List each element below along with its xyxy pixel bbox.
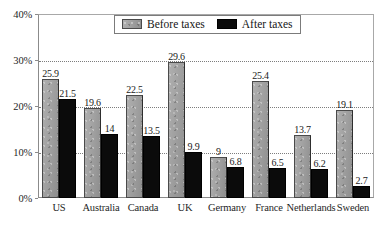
x-axis: USAustraliaCanadaUKGermanyFranceNetherla… (38, 201, 374, 225)
y-axis-tick-label: 40% (13, 9, 32, 20)
bar-value-label: 2.7 (356, 175, 368, 186)
x-axis-category-label: France (255, 201, 283, 215)
bar-group: 22.513.5 (122, 14, 164, 198)
bar-before-taxes: 19.1 (336, 110, 353, 198)
bar-group: 96.8 (206, 14, 248, 198)
x-axis-category-label: Australia (82, 201, 119, 215)
x-axis-category-label: Germany (208, 201, 246, 215)
x-axis-category-label: Netherlands (286, 201, 335, 215)
bar-value-label: 21.5 (59, 88, 76, 99)
bar-chart: 0%10%20%30%40% 25.921.519.61422.513.529.… (0, 0, 384, 232)
x-axis-category-label: Sweden (337, 201, 369, 215)
bar-before-taxes: 19.6 (84, 108, 101, 198)
y-axis-tick-label: 10% (13, 147, 32, 158)
bar-value-label: 13.7 (294, 124, 311, 135)
y-axis-tick-label: 20% (13, 101, 32, 112)
chart-legend: Before taxesAfter taxes (114, 15, 301, 34)
bar-group: 19.12.7 (332, 14, 374, 198)
y-axis-tick-label: 0% (18, 193, 32, 204)
bar-value-label: 19.6 (84, 97, 101, 108)
legend-swatch-before-taxes-icon (122, 19, 142, 29)
x-axis-category-label: UK (178, 201, 193, 215)
bar-before-taxes: 25.9 (42, 79, 59, 198)
bar-value-label: 6.8 (230, 156, 242, 167)
bar-value-label: 9 (216, 146, 221, 157)
legend-swatch-after-taxes-icon (217, 19, 237, 29)
y-axis-tick-label: 30% (13, 55, 32, 66)
bar-group: 29.69.9 (164, 14, 206, 198)
bar-after-taxes: 21.5 (59, 99, 76, 198)
bar-value-label: 6.2 (314, 158, 326, 169)
y-axis-tick-mark (35, 198, 38, 199)
bar-before-taxes: 22.5 (126, 95, 143, 199)
bar-value-label: 14 (105, 123, 115, 134)
bar-value-label: 29.6 (168, 51, 185, 62)
bar-before-taxes: 13.7 (294, 135, 311, 198)
bar-group: 25.46.5 (248, 14, 290, 198)
bar-after-taxes: 13.5 (143, 136, 160, 198)
bar-after-taxes: 9.9 (185, 152, 202, 198)
legend-label: Before taxes (147, 18, 205, 30)
bar-after-taxes: 14 (101, 134, 118, 198)
bar-value-label: 6.5 (272, 157, 284, 168)
legend-label: After taxes (242, 18, 293, 30)
bar-after-taxes: 6.8 (227, 167, 244, 198)
bar-group: 13.76.2 (290, 14, 332, 198)
y-axis: 0%10%20%30%40% (0, 0, 38, 232)
bar-after-taxes: 6.5 (269, 168, 286, 198)
legend-item: Before taxes (122, 18, 205, 30)
bar-value-label: 25.9 (42, 68, 59, 79)
bar-group: 19.614 (80, 14, 122, 198)
bar-before-taxes: 29.6 (168, 62, 185, 198)
bar-value-label: 9.9 (188, 141, 200, 152)
bar-group: 25.921.5 (38, 14, 80, 198)
x-axis-category-label: Canada (128, 201, 159, 215)
bar-value-label: 25.4 (252, 70, 269, 81)
bar-before-taxes: 9 (210, 157, 227, 198)
bar-before-taxes: 25.4 (252, 81, 269, 198)
x-axis-category-label: US (52, 201, 65, 215)
bar-value-label: 19.1 (336, 99, 353, 110)
bar-after-taxes: 6.2 (311, 169, 328, 198)
bars-layer: 25.921.519.61422.513.529.69.996.825.46.5… (38, 14, 374, 198)
bar-value-label: 13.5 (143, 125, 160, 136)
legend-item: After taxes (217, 18, 293, 30)
bar-value-label: 22.5 (126, 84, 143, 95)
bar-after-taxes: 2.7 (353, 186, 370, 198)
